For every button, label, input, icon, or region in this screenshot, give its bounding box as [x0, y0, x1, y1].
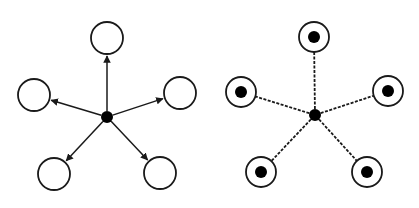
node-circle — [164, 77, 196, 109]
node-inner-dot — [308, 31, 320, 43]
node-inner-dot — [235, 86, 247, 98]
node-circle — [38, 158, 70, 190]
hub-node — [101, 111, 113, 123]
diagram-canvas — [0, 0, 419, 208]
star-diagram-arrows — [18, 22, 196, 190]
star-diagram-dashed — [226, 22, 403, 187]
node-circle — [91, 22, 123, 54]
arrow-edge — [111, 121, 148, 160]
arrow-edge — [66, 121, 103, 160]
node-inner-dot — [255, 166, 267, 178]
node-inner-dot — [361, 166, 373, 178]
arrow-edge — [51, 100, 101, 115]
hub-node — [309, 109, 321, 121]
arrow-edge — [113, 99, 163, 116]
node-circle — [18, 79, 50, 111]
node-inner-dot — [382, 85, 394, 97]
node-circle — [144, 157, 176, 189]
